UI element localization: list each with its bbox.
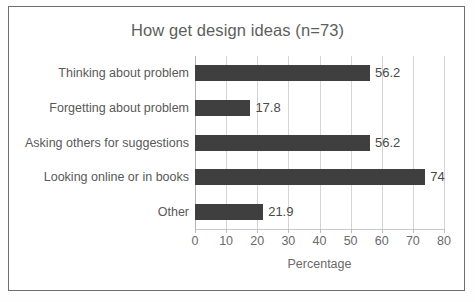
x-tick-label-80: 80 <box>424 234 464 248</box>
chart-title: How get design ideas (n=73) <box>9 21 466 40</box>
category-label: Asking others for suggestions <box>7 135 189 151</box>
x-tick-mark-70 <box>413 229 414 233</box>
bar[interactable] <box>195 65 370 81</box>
x-tick-mark-40 <box>320 229 321 233</box>
x-tick-mark-50 <box>351 229 352 233</box>
bar-value-label: 17.8 <box>255 100 280 116</box>
x-tick-mark-30 <box>288 229 289 233</box>
gridline-70 <box>413 56 414 229</box>
category-label: Thinking about problem <box>7 65 189 81</box>
bar-value-label: 56.2 <box>375 65 400 81</box>
x-tick-mark-60 <box>382 229 383 233</box>
x-axis-title: Percentage <box>195 257 444 271</box>
category-label: Forgetting about problem <box>7 100 189 116</box>
bar[interactable] <box>195 204 263 220</box>
category-label: Other <box>7 204 189 220</box>
bar-value-label: 56.2 <box>375 135 400 151</box>
bar[interactable] <box>195 100 250 116</box>
y-axis-category-labels: Thinking about problemForgetting about p… <box>9 56 189 229</box>
bar[interactable] <box>195 169 425 185</box>
gridline-80 <box>444 56 445 229</box>
x-tick-mark-10 <box>226 229 227 233</box>
x-tick-mark-20 <box>257 229 258 233</box>
bar-value-label: 74 <box>430 169 444 185</box>
x-tick-mark-0 <box>195 229 196 233</box>
plot-area: 56.217.856.27421.9 <box>195 56 444 229</box>
chart-figure: How get design ideas (n=73) Thinking abo… <box>8 6 465 291</box>
category-label: Looking online or in books <box>7 169 189 185</box>
x-tick-mark-80 <box>444 229 445 233</box>
x-axis-tick-labels: 01020304050607080 <box>195 234 444 252</box>
bar-value-label: 21.9 <box>268 204 293 220</box>
bar[interactable] <box>195 135 370 151</box>
